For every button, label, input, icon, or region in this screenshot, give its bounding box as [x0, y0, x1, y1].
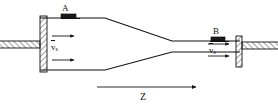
outlet-velocity-symbol: v — [209, 45, 214, 55]
inlet-velocity-symbol: v — [51, 42, 56, 52]
right-end-wall — [236, 36, 242, 67]
duct-upper-wall — [40, 18, 240, 41]
diagram-canvas — [0, 0, 278, 109]
outlet-velocity-label: vs — [209, 46, 216, 55]
left-end-wall — [40, 16, 47, 72]
right-outlet-stub — [242, 42, 278, 49]
inlet-velocity-label: vs — [51, 43, 58, 52]
station-label-a: A — [62, 4, 69, 13]
left-inlet-stub — [0, 41, 40, 48]
axis-label-z: Z — [140, 92, 146, 102]
station-label-b: B — [213, 27, 219, 36]
duct-flow-diagram: A B Z vs vs — [0, 0, 278, 109]
